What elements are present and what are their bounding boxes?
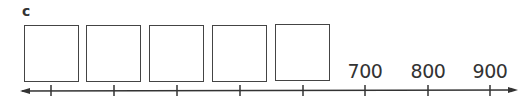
tick-label-800: 800	[411, 60, 446, 82]
axis-line	[22, 90, 514, 91]
tick-label-700: 700	[348, 60, 383, 82]
right-arrow-icon	[508, 87, 518, 93]
tick-label-900: 900	[473, 60, 508, 82]
left-arrow-icon	[20, 88, 30, 94]
number-line	[0, 0, 530, 112]
